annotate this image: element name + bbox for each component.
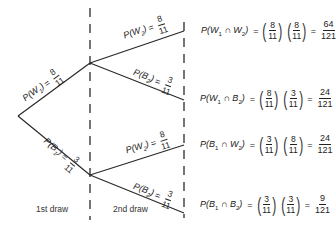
outcome-b1-w2: P(B1 ∩ W2) = (311) (811) = 24121 <box>200 134 333 155</box>
outcome-w1-w2: P(W1 ∩ W2) = (811) (811) = 64121 <box>201 20 336 41</box>
outcome-w1-b2: P(W1 ∩ B2) = (811) (311) = 24121 <box>200 88 333 109</box>
outcome-b1-b2: P(B1 ∩ B2) = (311) (311) = 9121 <box>200 194 330 215</box>
stage-label-2nd-draw: 2nd draw <box>113 204 148 214</box>
stage-label-1st-draw: 1st draw <box>36 204 68 214</box>
